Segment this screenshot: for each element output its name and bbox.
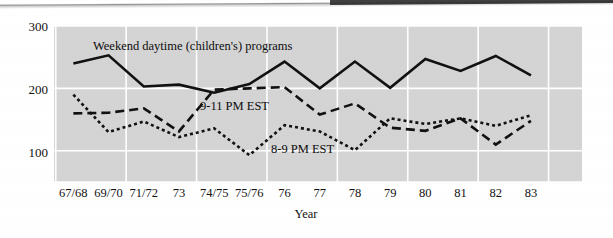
annotation-9-11-pm-est: 9-11 PM EST	[200, 99, 269, 113]
x-tick-label: 81	[454, 186, 467, 200]
x-tick-label: 71/72	[130, 186, 158, 200]
annotation-8-9-pm-est: 8-9 PM EST	[271, 142, 335, 156]
x-tick-label: 69/70	[94, 186, 122, 200]
x-tick-label: 74/75	[200, 186, 228, 200]
x-axis-title: Year	[294, 207, 318, 221]
x-tick-label: 83	[525, 186, 538, 200]
line-chart-svg: 300 200 100 67/6869/7071/727374/7575/767…	[0, 0, 613, 238]
y-tick-label-300: 300	[29, 19, 49, 34]
x-tick-label: 77	[314, 186, 327, 200]
x-tick-label: 75/76	[235, 186, 263, 200]
x-tick-label: 79	[384, 186, 397, 200]
x-tick-label: 76	[278, 186, 291, 200]
x-tick-label: 73	[173, 186, 186, 200]
x-tick-labels: 67/6869/7071/727374/7575/767677787980818…	[59, 186, 537, 200]
y-tick-label-100: 100	[29, 145, 49, 160]
x-tick-label: 80	[419, 186, 432, 200]
annotation-weekend-daytime: Weekend daytime (children's) programs	[93, 39, 293, 53]
chart-page: ᅠ ᅠ 300 200 100 67/6869/7071/727374/7575…	[0, 0, 613, 238]
x-tick-label: 67/68	[59, 186, 87, 200]
x-tick-label: 78	[349, 186, 362, 200]
x-tick-label: 82	[490, 186, 503, 200]
chart-plot-area: 300 200 100 67/6869/7071/727374/7575/767…	[0, 0, 613, 238]
y-tick-label-200: 200	[29, 82, 49, 97]
